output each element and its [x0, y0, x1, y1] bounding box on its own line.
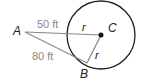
label-a: A	[12, 24, 21, 38]
label-radius-lower: r	[95, 49, 100, 61]
label-c: C	[108, 21, 117, 35]
label-b: B	[80, 67, 88, 81]
label-ab-length: 80 ft	[32, 50, 53, 62]
label-radius-upper: r	[82, 21, 87, 33]
tangent-circle-diagram: A C B 50 ft 80 ft r r	[0, 0, 141, 84]
label-ac-length: 50 ft	[37, 18, 58, 30]
segment-ac	[25, 32, 101, 35]
radius-cb	[87, 35, 101, 63]
center-point-c	[99, 33, 104, 38]
